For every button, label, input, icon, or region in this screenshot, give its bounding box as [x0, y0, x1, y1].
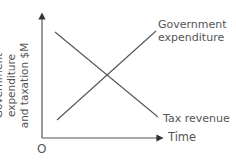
government-expenditure-line	[57, 31, 156, 120]
y-axis-label: Government expenditure and taxation $M	[0, 29, 31, 143]
tax-revenue-label: Tax revenue	[163, 112, 230, 125]
y-axis-label-line1: Government expenditure	[0, 29, 18, 143]
government-expenditure-label-line2: expenditure	[158, 31, 227, 44]
x-axis-label: Time	[168, 131, 196, 144]
government-expenditure-label-line1: Government	[158, 18, 227, 31]
tax-revenue-line	[55, 32, 158, 117]
government-expenditure-label: Government expenditure	[158, 18, 227, 44]
y-axis-label-line2: and taxation $M	[18, 29, 31, 143]
origin-label: O	[37, 143, 46, 156]
